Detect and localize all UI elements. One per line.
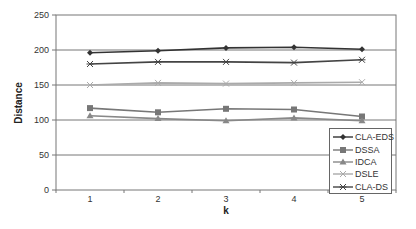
- data-series: [87, 44, 366, 123]
- line-chart: 050100150200250 12345 Distance k: [0, 0, 416, 229]
- square-marker-icon: [291, 107, 297, 113]
- star-marker-icon: [340, 184, 347, 190]
- series-dsle: [87, 79, 365, 88]
- star-marker-icon: [87, 61, 94, 67]
- legend-item-cla-eds: CLA-EDS: [333, 131, 388, 143]
- legend-item-dsle: DSLE: [333, 168, 388, 180]
- square-marker-icon: [155, 109, 161, 115]
- star-marker-icon: [359, 57, 366, 63]
- x-tick-label: 1: [87, 194, 92, 204]
- y-axis-title: Distance: [13, 82, 24, 124]
- star-marker-icon: [155, 59, 162, 65]
- x-tick-label: 3: [223, 194, 228, 204]
- x-tick-label: 5: [359, 194, 364, 204]
- x-tick-label: 2: [155, 194, 160, 204]
- legend-label: CLA-EDS: [355, 132, 394, 142]
- y-tick-label: 200: [34, 45, 49, 55]
- y-tick-label: 0: [44, 185, 49, 195]
- y-tick-label: 50: [39, 150, 49, 160]
- diamond-marker-icon: [87, 50, 93, 56]
- diamond-marker-icon: [340, 134, 346, 140]
- legend-swatch-icon: [333, 132, 353, 142]
- star-marker-icon: [223, 59, 230, 65]
- diamond-marker-icon: [359, 46, 365, 52]
- square-marker-icon: [340, 147, 346, 153]
- x-tick-label: 4: [291, 194, 296, 204]
- legend-item-idca: IDCA: [333, 156, 388, 168]
- y-tick-label: 150: [34, 80, 49, 90]
- x-axis-title: k: [223, 205, 229, 216]
- legend-item-dssa: DSSA: [333, 143, 388, 155]
- y-axis-ticks: 050100150200250: [34, 10, 56, 195]
- legend-swatch-icon: [333, 182, 353, 192]
- legend-label: DSLE: [355, 169, 379, 179]
- y-tick-label: 250: [34, 10, 49, 20]
- y-tick-label: 100: [34, 115, 49, 125]
- square-marker-icon: [87, 105, 93, 111]
- diamond-marker-icon: [155, 48, 161, 54]
- legend-swatch-icon: [333, 145, 353, 155]
- legend-item-cla-ds: CLA-DS: [333, 181, 388, 193]
- legend-label: DSSA: [355, 145, 380, 155]
- star-marker-icon: [291, 60, 298, 66]
- series-cla-ds: [87, 57, 366, 67]
- legend-swatch-icon: [333, 157, 353, 167]
- chart-legend: CLA-EDSDSSAIDCADSLECLA-DS: [329, 128, 392, 194]
- diamond-marker-icon: [291, 44, 297, 50]
- legend-label: CLA-DS: [355, 182, 388, 192]
- square-marker-icon: [223, 106, 229, 112]
- series-idca: [87, 112, 366, 123]
- legend-swatch-icon: [333, 169, 353, 179]
- legend-label: IDCA: [355, 157, 377, 167]
